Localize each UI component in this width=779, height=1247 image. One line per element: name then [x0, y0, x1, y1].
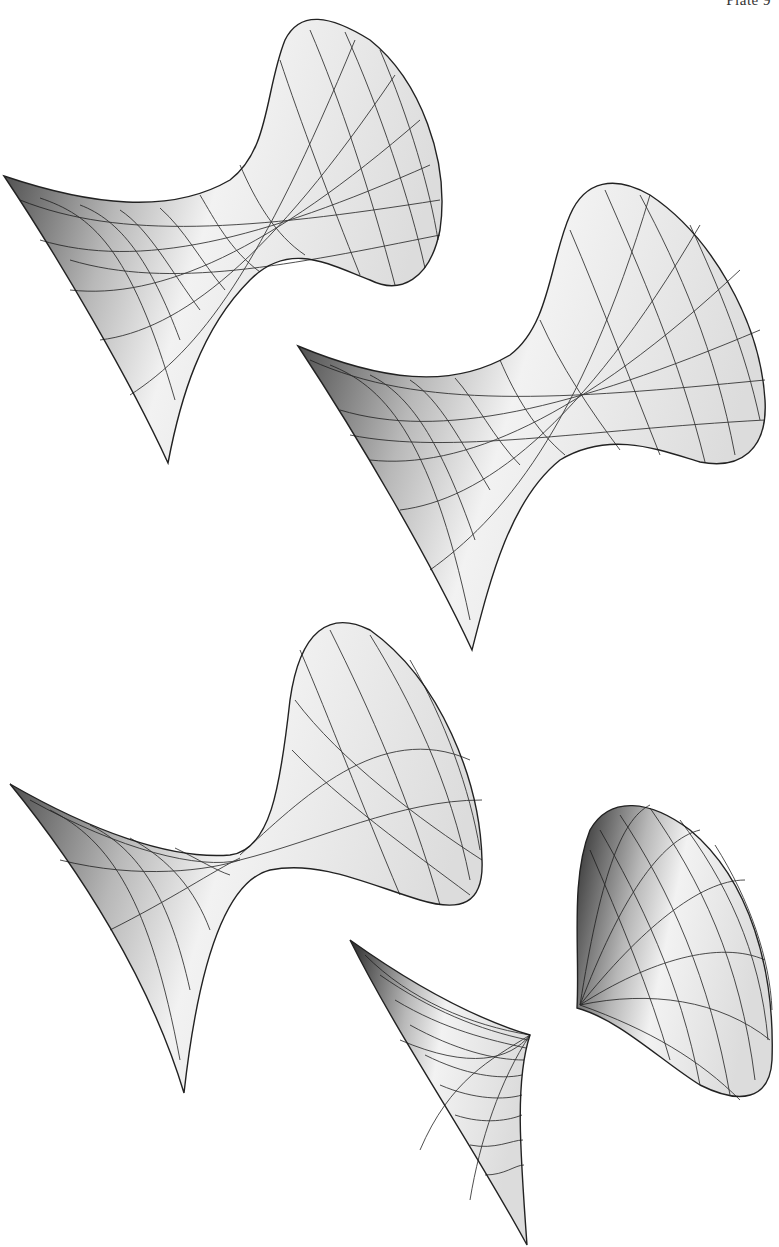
surface-5	[577, 805, 772, 1100]
surfaces-figure	[0, 0, 779, 1247]
surface-4	[350, 940, 530, 1245]
